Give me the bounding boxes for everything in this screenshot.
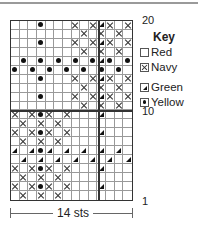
stitch-cell-red <box>46 39 55 48</box>
stitch-cell-red <box>11 75 20 84</box>
key-item-green: Green <box>140 81 183 93</box>
stitch-cell-navy <box>106 39 115 48</box>
stitch-cell-red <box>63 48 72 57</box>
stitch-cell-red <box>20 182 29 191</box>
stitch-cell-navy <box>28 110 37 119</box>
stitch-cell-red <box>89 128 98 137</box>
stitch-cell-red <box>28 30 37 39</box>
key-item-yellow: Yellow <box>140 96 184 108</box>
stitch-cell-navy <box>123 75 132 84</box>
stitch-cell-red <box>54 48 63 57</box>
stitch-cell-yellow <box>46 66 55 75</box>
stitch-cell-red <box>80 137 89 146</box>
stitch-cell-red <box>20 48 29 57</box>
stitch-cell-red <box>115 93 124 102</box>
stitch-cell-red <box>115 57 124 66</box>
width-measure: 14 sts <box>10 206 133 220</box>
stitch-cell-red <box>106 84 115 93</box>
stitch-cell-yellow <box>37 128 46 137</box>
stitch-cell-red <box>72 191 81 200</box>
stitch-cell-red <box>54 39 63 48</box>
stitch-cell-red <box>11 84 20 93</box>
stitch-cell-yellow <box>106 57 115 66</box>
stitch-cell-navy <box>54 119 63 128</box>
stitch-cell-navy <box>106 75 115 84</box>
stitch-cell-red <box>80 182 89 191</box>
key-label: Navy <box>151 61 177 73</box>
stitch-cell-green <box>80 146 89 155</box>
stitch-cell-red <box>115 137 124 146</box>
stitch-cell-red <box>63 119 72 128</box>
stitch-cell-navy <box>28 164 37 173</box>
stitch-cell-navy <box>72 39 81 48</box>
stitch-cell-yellow <box>37 164 46 173</box>
stitch-cell-yellow <box>37 93 46 102</box>
stitch-cell-red <box>63 39 72 48</box>
stitch-cell-navy <box>11 128 20 137</box>
stitch-cell-red <box>115 182 124 191</box>
stitch-cell-red <box>72 128 81 137</box>
stitch-cell-navy <box>106 93 115 102</box>
key-item-navy: Navy <box>140 61 177 73</box>
stitch-cell-yellow <box>37 146 46 155</box>
stitch-cell-navy <box>72 75 81 84</box>
key-label: Red <box>151 46 172 58</box>
stitch-cell-red <box>54 30 63 39</box>
stitch-cell-navy <box>63 110 72 119</box>
stitch-cell-red <box>106 119 115 128</box>
stitch-cell-green <box>72 155 81 164</box>
stitch-cell-red <box>123 146 132 155</box>
stitch-cell-yellow <box>28 66 37 75</box>
stitch-cell-navy <box>72 21 81 30</box>
stitch-cell-navy <box>54 137 63 146</box>
stitch-cell-red <box>80 191 89 200</box>
stitch-cell-red <box>89 48 98 57</box>
stitch-cell-red <box>28 155 37 164</box>
stitch-cell-yellow <box>37 110 46 119</box>
stitch-cell-navy <box>28 128 37 137</box>
stitch-cell-red <box>80 75 89 84</box>
stitch-cell-red <box>11 93 20 102</box>
stitch-cell-red <box>54 164 63 173</box>
stitch-cell-red <box>106 137 115 146</box>
stitch-cell-red <box>106 128 115 137</box>
stitch-cell-navy <box>63 182 72 191</box>
stitch-cell-red <box>106 173 115 182</box>
stitch-cell-red <box>11 39 20 48</box>
stitch-cell-red <box>63 191 72 200</box>
stitch-cell-red <box>46 30 55 39</box>
stitch-cell-navy <box>89 39 98 48</box>
stitch-cell-navy <box>46 128 55 137</box>
repeat-divider-horizontal <box>10 110 133 112</box>
stitch-cell-navy <box>54 191 63 200</box>
stitch-cell-red <box>54 182 63 191</box>
stitch-cell-navy <box>89 21 98 30</box>
stitch-cell-red <box>20 110 29 119</box>
stitch-cell-red <box>20 30 29 39</box>
stitch-cell-red <box>115 119 124 128</box>
stitch-cell-red <box>123 84 132 93</box>
stitch-cell-navy <box>80 30 89 39</box>
stitch-cell-yellow <box>37 182 46 191</box>
stitch-cell-red <box>28 137 37 146</box>
stitch-cell-navy <box>115 48 124 57</box>
stitch-cell-red <box>72 66 81 75</box>
stitch-cell-red <box>20 146 29 155</box>
stitch-cell-red <box>89 66 98 75</box>
stitch-cell-green <box>63 146 72 155</box>
stitch-cell-red <box>54 75 63 84</box>
stitch-cell-red <box>63 93 72 102</box>
stitch-cell-red <box>46 75 55 84</box>
stitch-cell-red <box>54 128 63 137</box>
stitch-cell-red <box>106 164 115 173</box>
stitch-cell-red <box>20 93 29 102</box>
stitch-cell-red <box>89 137 98 146</box>
stitch-cell-red <box>115 39 124 48</box>
stitch-cell-red <box>46 21 55 30</box>
stitch-cell-navy <box>89 93 98 102</box>
stitch-cell-red <box>20 75 29 84</box>
stitch-cell-green <box>37 155 46 164</box>
stitch-cell-red <box>89 191 98 200</box>
stitch-cell-yellow <box>20 57 29 66</box>
stitch-cell-red <box>46 173 55 182</box>
